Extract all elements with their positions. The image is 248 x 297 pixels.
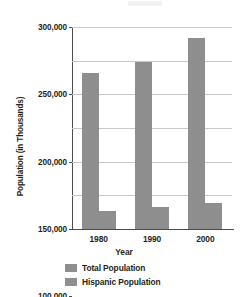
legend-item: Total Population xyxy=(0,261,248,275)
bar xyxy=(152,207,169,229)
chart-legend: Total PopulationHispanic Population xyxy=(0,261,248,289)
legend-swatch-icon xyxy=(65,278,77,286)
bar xyxy=(82,73,99,229)
y-axis-title: Population (in Thousands) xyxy=(16,57,25,237)
x-tick-label: 1990 xyxy=(143,234,161,244)
bar xyxy=(205,203,222,229)
legend-swatch-icon xyxy=(65,264,77,272)
bar xyxy=(188,38,205,229)
gridline: 250,000 xyxy=(72,61,232,62)
y-tick-mark xyxy=(69,94,72,95)
bar-chart-figure: Population (in Thousands) 050,000100,000… xyxy=(0,0,248,297)
y-tick-mark xyxy=(69,162,72,163)
legend-label: Total Population xyxy=(82,263,145,273)
bar xyxy=(99,211,116,229)
bar xyxy=(135,62,152,229)
gridline: 300,000 xyxy=(72,27,232,28)
y-tick-mark xyxy=(69,27,72,28)
y-tick-label: 200,000 xyxy=(38,157,67,166)
y-tick-label: 150,000 xyxy=(38,225,67,234)
scan-artifact xyxy=(128,1,162,6)
y-tick-label: 300,000 xyxy=(38,23,67,32)
y-tick-label: 100,000 xyxy=(38,292,67,297)
gridline: 0 xyxy=(72,229,232,230)
x-tick-label: 2000 xyxy=(196,234,214,244)
y-tick-mark xyxy=(69,229,72,230)
plot-area: 050,000100,000150,000200,000250,000300,0… xyxy=(72,27,232,229)
x-tick-label: 1980 xyxy=(90,234,108,244)
legend-item: Hispanic Population xyxy=(0,275,248,289)
y-tick-label: 250,000 xyxy=(38,90,67,99)
legend-label: Hispanic Population xyxy=(82,277,161,287)
x-axis-title: Year xyxy=(0,247,248,257)
